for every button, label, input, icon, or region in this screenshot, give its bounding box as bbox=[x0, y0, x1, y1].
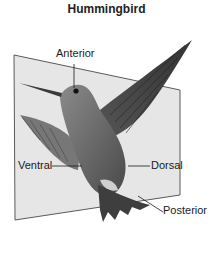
bird-eye bbox=[73, 88, 78, 93]
label-dorsal: Dorsal bbox=[151, 159, 183, 171]
label-ventral: Ventral bbox=[18, 159, 52, 171]
label-anterior: Anterior bbox=[56, 47, 95, 59]
label-posterior: Posterior bbox=[163, 204, 207, 216]
